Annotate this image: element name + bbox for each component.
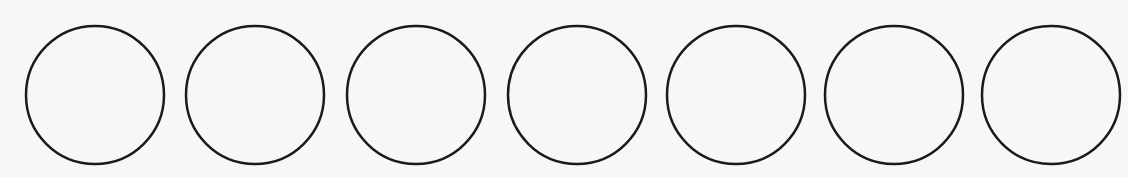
circle-outline-7 [982,26,1120,164]
circle-outline-4 [508,26,646,164]
circle-outline-6 [825,26,963,164]
circle-outline-2 [186,26,324,164]
circles-canvas [0,0,1128,177]
circle-outline-1 [26,26,164,164]
circle-outline-3 [347,26,485,164]
circle-outline-5 [667,26,805,164]
circles-row [0,0,1128,177]
